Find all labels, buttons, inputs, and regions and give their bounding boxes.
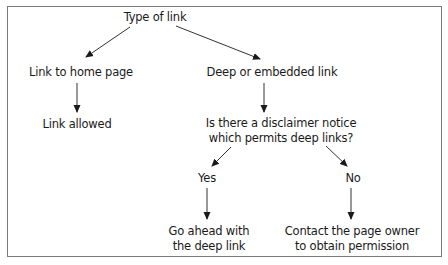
- go-line-2: the deep link: [169, 239, 250, 254]
- node-go-ahead: Go ahead with the deep link: [169, 224, 250, 254]
- node-link-to-home-page: Link to home page: [29, 65, 133, 80]
- node-type-of-link: Type of link: [124, 10, 187, 25]
- node-yes: Yes: [198, 171, 216, 186]
- node-link-allowed: Link allowed: [42, 117, 111, 132]
- question-line-2: which permits deep links?: [206, 131, 357, 146]
- node-disclaimer-question: Is there a disclaimer notice which permi…: [206, 116, 357, 146]
- node-no: No: [345, 171, 360, 186]
- go-line-1: Go ahead with: [169, 224, 250, 239]
- node-contact-owner: Contact the page owner to obtain permiss…: [285, 224, 419, 254]
- contact-line-1: Contact the page owner: [285, 224, 419, 239]
- node-deep-or-embedded-link: Deep or embedded link: [207, 65, 338, 80]
- question-line-1: Is there a disclaimer notice: [206, 116, 357, 131]
- contact-line-2: to obtain permission: [285, 239, 419, 254]
